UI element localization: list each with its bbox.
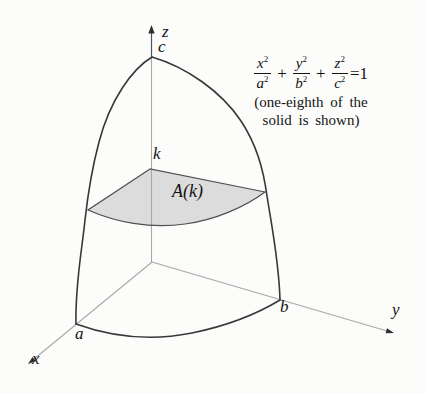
a-intercept-label: a [75, 325, 84, 342]
fraction-y: y2 b2 [293, 56, 310, 91]
equation-den-a: a [257, 75, 265, 91]
area-label: A(k) [172, 182, 203, 200]
z-axis-arrow-icon [148, 25, 154, 34]
equation-den-b: b [295, 75, 303, 91]
equation-exp: 2 [341, 74, 346, 84]
ellipsoid-equation: x2 a2 + y2 b2 + z2 c2 =1 [226, 56, 396, 91]
equation-exp: 2 [264, 54, 269, 64]
figure-note: (one-eighth of the solid is shown) [226, 93, 396, 129]
ellipsoid-figure: z c k A(k) a b x y x2 a2 + y2 b2 + z2 c2… [0, 0, 426, 394]
x-axis-label: x [32, 350, 40, 367]
b-intercept-label: b [280, 298, 289, 315]
equation-exp: 2 [340, 54, 345, 64]
equation-exp: 2 [264, 74, 269, 84]
equation-exp: 2 [303, 74, 308, 84]
note-line-1: (one-eighth of the [226, 93, 396, 111]
equals-one: =1 [350, 64, 368, 84]
plus-sign: + [277, 64, 287, 84]
fraction-x: x2 a2 [254, 56, 271, 91]
ellipsoid-base-arc [76, 300, 280, 337]
y-axis-arrow-icon [386, 328, 394, 333]
y-axis-label: y [392, 301, 400, 318]
equation-exp: 2 [302, 54, 307, 64]
y-axis-line [152, 262, 391, 332]
plus-sign: + [316, 64, 326, 84]
fraction-z: z2 c2 [332, 56, 348, 91]
equation-num-x: x [257, 55, 264, 71]
note-line-2: solid is shown) [226, 111, 396, 129]
x-axis-line [31, 262, 152, 362]
equation-den-c: c [334, 75, 341, 91]
k-label: k [153, 145, 161, 162]
c-intercept-label: c [158, 38, 166, 55]
